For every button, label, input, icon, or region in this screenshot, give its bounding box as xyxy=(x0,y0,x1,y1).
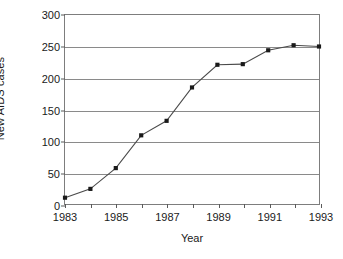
y-tick-label: 150 xyxy=(42,105,60,116)
x-tick-mark xyxy=(91,204,92,208)
y-tick-label: 300 xyxy=(42,10,60,21)
chart-container: New AIDS cases 050100150200250300 198319… xyxy=(0,0,343,259)
data-point-marker xyxy=(190,85,194,89)
x-tick-mark xyxy=(321,204,322,208)
data-point-marker xyxy=(266,48,270,52)
y-tick-label: 0 xyxy=(54,201,60,212)
x-tick-label: 1993 xyxy=(309,211,333,223)
x-tick-label: 1983 xyxy=(53,211,77,223)
data-point-marker xyxy=(63,196,67,200)
data-point-marker xyxy=(317,44,321,48)
data-point-marker xyxy=(215,63,219,67)
data-point-marker xyxy=(241,62,245,66)
data-point-marker xyxy=(292,43,296,47)
x-tick-mark xyxy=(116,204,117,208)
plot-area: 050100150200250300 198319851987198919911… xyxy=(64,14,320,205)
x-tick-label: 1991 xyxy=(258,211,282,223)
x-tick-mark xyxy=(142,204,143,208)
x-tick-mark xyxy=(65,204,66,208)
y-tick-label: 250 xyxy=(42,41,60,52)
x-tick-label: 1985 xyxy=(104,211,128,223)
data-series-line xyxy=(65,15,319,204)
data-point-marker xyxy=(139,133,143,137)
data-point-marker xyxy=(114,166,118,170)
y-axis-title: New AIDS cases xyxy=(0,3,9,194)
x-tick-mark xyxy=(270,204,271,208)
y-tick-label: 50 xyxy=(48,169,60,180)
y-tick-label: 100 xyxy=(42,137,60,148)
data-point-marker xyxy=(88,187,92,191)
x-tick-label: 1989 xyxy=(206,211,230,223)
x-tick-mark xyxy=(295,204,296,208)
x-axis-title: Year xyxy=(64,231,320,245)
x-tick-mark xyxy=(167,204,168,208)
x-tick-mark xyxy=(244,204,245,208)
y-tick-label: 200 xyxy=(42,73,60,84)
x-tick-mark xyxy=(219,204,220,208)
x-tick-label: 1987 xyxy=(155,211,179,223)
data-point-marker xyxy=(165,119,169,123)
x-tick-mark xyxy=(193,204,194,208)
